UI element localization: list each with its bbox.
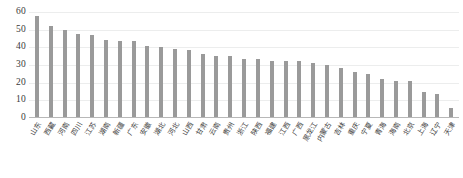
bar-slot — [44, 12, 58, 118]
x-tick-label: 山西 — [182, 121, 195, 137]
bar[interactable] — [242, 59, 246, 118]
bar[interactable] — [35, 16, 39, 118]
x-label-slot: 内蒙古 — [320, 119, 334, 177]
bar[interactable] — [311, 63, 315, 118]
x-label-slot: 河南 — [58, 119, 72, 177]
x-tick-label: 山东 — [30, 121, 43, 137]
x-tick-label: 福建 — [265, 121, 278, 137]
bar[interactable] — [297, 61, 301, 118]
bar[interactable] — [422, 92, 426, 119]
x-label-slot: 吉林 — [334, 119, 348, 177]
bar[interactable] — [339, 68, 343, 118]
bar[interactable] — [394, 81, 398, 118]
bar[interactable] — [49, 26, 53, 118]
bar[interactable] — [159, 47, 163, 118]
bar-slot — [99, 12, 113, 118]
y-tick-label: 10 — [16, 96, 26, 106]
bar[interactable] — [90, 35, 94, 118]
bar[interactable] — [145, 46, 149, 118]
bar-slot — [182, 12, 196, 118]
y-tick-label: 0 — [21, 113, 26, 123]
x-tick-label: 甘肃 — [196, 121, 209, 137]
x-label-slot: 云南 — [210, 119, 224, 177]
bar-slot — [141, 12, 155, 118]
bar[interactable] — [132, 41, 136, 118]
bar[interactable] — [104, 40, 108, 118]
x-label-slot: 青海 — [375, 119, 389, 177]
x-label-slot: 湖北 — [154, 119, 168, 177]
bar-slot — [431, 12, 445, 118]
bar[interactable] — [187, 50, 191, 118]
bar[interactable] — [270, 61, 274, 118]
bar-slot — [444, 12, 458, 118]
x-label-slot: 浙江 — [237, 119, 251, 177]
bar-slot — [320, 12, 334, 118]
x-label-slot: 辽宁 — [431, 119, 445, 177]
y-axis: 6050403020100 — [0, 12, 26, 118]
bar[interactable] — [214, 56, 218, 118]
x-label-slot: 北京 — [403, 119, 417, 177]
bar-slot — [210, 12, 224, 118]
bar-series — [29, 12, 459, 118]
bar[interactable] — [76, 34, 80, 118]
x-tick-label: 江苏 — [85, 121, 98, 137]
bar[interactable] — [228, 56, 232, 118]
x-tick-label: 河南 — [58, 121, 71, 137]
bar[interactable] — [284, 61, 288, 118]
x-tick-label: 浙江 — [237, 121, 250, 137]
x-label-slot: 福建 — [265, 119, 279, 177]
bar[interactable] — [353, 72, 357, 118]
x-tick-label: 广东 — [127, 121, 140, 137]
x-label-slot: 山西 — [182, 119, 196, 177]
bar[interactable] — [173, 49, 177, 118]
bar-slot — [279, 12, 293, 118]
bar[interactable] — [408, 81, 412, 118]
x-tick-label: 陕西 — [251, 121, 264, 137]
x-tick-label: 吉林 — [334, 121, 347, 137]
bar[interactable] — [63, 30, 67, 118]
bar[interactable] — [201, 54, 205, 118]
x-label-slot: 贵州 — [223, 119, 237, 177]
bar[interactable] — [118, 41, 122, 118]
x-label-slot: 新疆 — [113, 119, 127, 177]
y-tick-label: 40 — [16, 43, 26, 53]
y-tick-label: 60 — [16, 7, 26, 17]
bar[interactable] — [435, 94, 439, 118]
bar-slot — [30, 12, 44, 118]
x-tick-label: 宁夏 — [361, 121, 374, 137]
x-tick-label: 江西 — [279, 121, 292, 137]
x-label-slot: 上海 — [417, 119, 431, 177]
x-tick-label: 北京 — [403, 121, 416, 137]
x-label-slot: 安徽 — [141, 119, 155, 177]
x-label-slot: 西藏 — [44, 119, 58, 177]
x-label-slot: 宁夏 — [362, 119, 376, 177]
x-label-slot: 湖南 — [99, 119, 113, 177]
x-label-slot: 河北 — [168, 119, 182, 177]
x-label-slot: 江西 — [279, 119, 293, 177]
bar-slot — [265, 12, 279, 118]
bar-slot — [348, 12, 362, 118]
x-axis-line — [29, 117, 459, 118]
x-label-slot: 山东 — [30, 119, 44, 177]
x-label-slot: 江苏 — [85, 119, 99, 177]
y-tick-label: 30 — [16, 60, 26, 70]
bar-slot — [237, 12, 251, 118]
x-tick-label: 云南 — [209, 121, 222, 137]
x-label-slot: 重庆 — [348, 119, 362, 177]
bar[interactable] — [366, 74, 370, 118]
bar[interactable] — [256, 59, 260, 118]
bar-slot — [292, 12, 306, 118]
bar-slot — [196, 12, 210, 118]
x-tick-label: 上海 — [417, 121, 430, 137]
x-tick-label: 西藏 — [44, 121, 57, 137]
bar-slot — [85, 12, 99, 118]
x-tick-label: 青海 — [375, 121, 388, 137]
bar[interactable] — [380, 79, 384, 118]
bar-slot — [306, 12, 320, 118]
x-tick-label: 重庆 — [348, 121, 361, 137]
x-label-slot: 海南 — [389, 119, 403, 177]
y-tick-label: 50 — [16, 25, 26, 35]
plot-area — [29, 12, 459, 118]
x-tick-label: 天津 — [444, 121, 457, 137]
bar[interactable] — [325, 65, 329, 118]
